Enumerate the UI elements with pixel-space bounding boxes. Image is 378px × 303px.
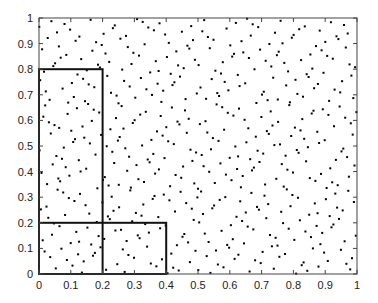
data-point (88, 83, 90, 85)
data-point (337, 38, 339, 40)
data-point (285, 155, 287, 157)
data-point (57, 178, 59, 180)
data-point (194, 59, 196, 61)
data-point (124, 147, 126, 149)
data-point (105, 53, 107, 55)
data-point (44, 104, 46, 106)
data-point (267, 203, 269, 205)
data-point (319, 30, 321, 32)
data-point (101, 44, 103, 46)
data-point (230, 224, 232, 226)
data-point (106, 75, 108, 77)
data-point (61, 158, 63, 160)
data-point (148, 232, 150, 234)
data-point (92, 255, 94, 257)
data-point (299, 219, 301, 221)
data-point (154, 195, 156, 197)
data-point (154, 173, 156, 175)
x-tick-label: 0.6 (222, 279, 237, 291)
data-point (62, 88, 64, 90)
data-point (42, 116, 44, 118)
data-point (265, 217, 267, 219)
data-point (279, 143, 281, 145)
data-point (113, 210, 115, 212)
data-point (272, 77, 274, 79)
data-point (344, 117, 346, 119)
x-tick-label: 0.7 (254, 279, 269, 291)
data-point (334, 193, 336, 195)
data-point (331, 226, 333, 228)
data-point (163, 194, 165, 196)
data-point (95, 154, 97, 156)
data-point (149, 71, 151, 73)
data-point (291, 37, 293, 39)
data-point (315, 45, 317, 47)
data-point (347, 33, 349, 35)
data-point (209, 47, 211, 49)
data-point (244, 119, 246, 121)
data-point (118, 102, 120, 104)
data-point (182, 236, 184, 238)
data-point (90, 19, 92, 21)
data-point (336, 35, 338, 37)
data-point (65, 166, 67, 168)
data-point (305, 160, 307, 162)
data-point (98, 235, 100, 237)
data-point (80, 171, 82, 173)
data-point (328, 100, 330, 102)
data-point (314, 180, 316, 182)
data-point (157, 216, 159, 218)
data-point (257, 26, 259, 28)
data-point (181, 31, 183, 33)
data-point (252, 23, 254, 25)
data-point (46, 183, 48, 185)
x-tick-label: 0.2 (95, 279, 110, 291)
data-point (266, 130, 268, 132)
data-point (236, 168, 238, 170)
data-point (180, 177, 182, 179)
data-point (277, 121, 279, 123)
data-point (75, 40, 77, 42)
data-point (203, 19, 205, 21)
data-point (50, 20, 52, 22)
data-point (80, 58, 82, 60)
data-point (158, 168, 160, 170)
data-point (353, 201, 355, 203)
x-tick-label: 0.5 (190, 279, 205, 291)
data-point (313, 110, 315, 112)
data-point (345, 263, 347, 265)
data-point (207, 36, 209, 38)
y-tick-label: 0.1 (18, 242, 33, 254)
data-point (255, 102, 257, 104)
data-point (238, 108, 240, 110)
y-tick-label: 0.5 (18, 140, 33, 152)
data-point (197, 188, 199, 190)
data-point (121, 69, 123, 71)
data-point (70, 242, 72, 244)
y-tick-label: 0 (27, 268, 33, 280)
data-point (108, 61, 110, 63)
data-point (165, 126, 167, 128)
data-point (75, 231, 77, 233)
data-point (91, 120, 93, 122)
data-point (84, 100, 86, 102)
data-point (255, 136, 257, 138)
data-point (191, 208, 193, 210)
data-point (277, 245, 279, 247)
data-point (93, 109, 95, 111)
data-point (338, 218, 340, 220)
data-point (44, 251, 46, 253)
data-point (72, 265, 74, 267)
data-point (135, 212, 137, 214)
data-point (146, 246, 148, 248)
data-point (251, 169, 253, 171)
y-tick-label: 0.2 (18, 217, 33, 229)
data-point (158, 70, 160, 72)
data-point (352, 134, 354, 136)
data-point (327, 260, 329, 262)
data-point (188, 48, 190, 50)
data-point (127, 46, 129, 48)
data-point (201, 154, 203, 156)
data-point (282, 42, 284, 44)
data-point (173, 81, 175, 83)
